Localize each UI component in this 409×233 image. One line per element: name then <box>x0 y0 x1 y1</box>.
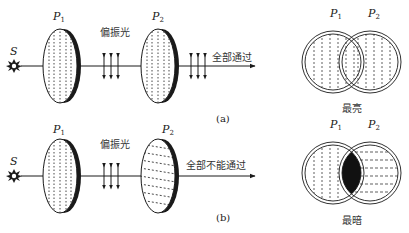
polarizer-p1 <box>43 28 81 104</box>
caption-darkest: 最暗 <box>342 214 362 226</box>
caption-brightest: 最亮 <box>342 102 362 114</box>
overlap-diagram-darkest: P1 P2 最暗 <box>302 118 401 226</box>
p1-label: P1 <box>329 7 342 21</box>
light-source-icon <box>6 59 22 73</box>
p1-label: P1 <box>329 118 342 132</box>
result-label: 全部不能通过 <box>186 159 246 171</box>
source-label: S <box>10 45 18 58</box>
p2-label: P2 <box>151 10 164 24</box>
p1-label: P1 <box>52 10 65 24</box>
light-source-icon <box>6 169 22 183</box>
polarizer-p2 <box>141 28 179 104</box>
polarization-diagram: S P1 偏振光 <box>0 0 409 233</box>
panel-b: S P1 偏振光 <box>6 123 255 223</box>
p2-label: P2 <box>161 123 174 137</box>
p2-label: P2 <box>367 118 380 132</box>
p2-label: P2 <box>367 7 380 21</box>
caption-a: (a) <box>216 113 230 124</box>
result-label: 全部通过 <box>212 51 252 63</box>
source-label: S <box>10 155 18 168</box>
polarized-light-label: 偏振光 <box>100 138 130 150</box>
caption-b: (b) <box>216 212 230 223</box>
panel-a: S P1 偏振光 <box>6 10 255 124</box>
p1-label: P1 <box>52 123 65 137</box>
polarizer-p2-rotated <box>140 139 179 213</box>
polarizer-p1 <box>43 138 81 214</box>
overlap-diagram-brightest: P1 P2 最亮 <box>302 7 401 114</box>
polarized-light-label: 偏振光 <box>100 26 130 38</box>
